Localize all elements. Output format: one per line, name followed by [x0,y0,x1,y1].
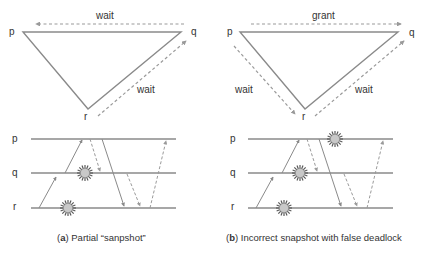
panel-a-timelines [31,139,176,216]
timeline-label-p: p [12,134,18,144]
timeline-label-r: r [13,202,16,212]
msg-r-to-q [39,177,56,208]
timeline-label-q: q [12,168,18,178]
diagram-canvas [0,0,428,253]
triangle-pqr-a [23,32,181,109]
node-label-p: p [227,27,233,37]
panel-a-graph [23,24,186,116]
msg-r-to-p-dashed [367,141,383,208]
caption-a-text: Partial “sanpshot” [69,232,146,243]
msg-r-to-p-dashed [150,141,166,208]
edge-wait-p-to-r [234,46,295,114]
msg-r-to-q [256,177,273,208]
node-label-q: q [409,28,415,38]
msg-p-to-q-dashed [90,139,100,171]
node-label-p: p [9,27,15,37]
panel-b-timelines [248,131,393,216]
edge-wait-r-to-q [315,41,404,116]
timeline-label-q: q [230,168,236,178]
msg-q-to-p [282,140,299,173]
snapshot-marker-q [77,165,93,181]
edge-label-grant: grant [312,11,335,21]
snapshot-marker-r [60,200,76,216]
msg-p-to-q-dashed [307,139,317,171]
snapshot-marker-q [292,165,308,181]
caption-a: (a) Partial “sanpshot” [57,233,146,243]
edge-label-wait-right: wait [137,85,155,95]
caption-b: (b) Incorrect snapshot with false deadlo… [226,233,402,243]
timeline-label-r: r [231,202,234,212]
msg-q-to-r-dashed [127,174,140,206]
edge-label-wait-left: wait [235,85,253,95]
msg-q-to-r-dashed [344,174,357,206]
snapshot-marker-r [276,200,292,216]
panel-b-graph [234,24,404,116]
triangle-pqr-b [240,32,398,109]
timeline-label-p: p [230,134,236,144]
node-label-r: r [302,112,305,122]
edge-label-wait-right: wait [355,85,373,95]
caption-b-text: Incorrect snapshot with false deadlock [238,232,402,243]
edge-wait-r-to-q [98,41,186,116]
node-label-q: q [191,27,197,37]
snapshot-marker-p [327,131,343,147]
edge-label-wait-top: wait [96,11,114,21]
node-label-r: r [84,112,87,122]
